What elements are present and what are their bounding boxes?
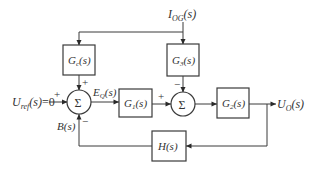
block-gc: Gc(s) [63,45,95,75]
arrow-head [212,102,218,107]
sum2-top-sign: − [174,78,180,90]
arrow-head [271,102,277,107]
block-g1: G1(s) [119,89,152,117]
svg-text:G1(s): G1(s) [124,97,147,111]
svg-text:Σ: Σ [179,98,186,112]
output-label: UO(s) [277,97,304,113]
feedback-label: B(s) [57,120,76,133]
block-diagram: IOG(s) Gc(s) G3(s) + − Uref(s)=0 + Σ EQ(… [0,0,314,172]
svg-text:Gc(s): Gc(s) [68,54,91,68]
arrow-head [114,100,120,105]
sum1-bottom-sign: − [82,115,88,127]
sum1-left-sign: + [54,88,60,100]
summing-junction-2: Σ [171,92,195,116]
svg-text:H(s): H(s) [157,140,178,153]
error-label: EQ(s) [92,86,117,100]
input-label: Uref(s)=0 [12,95,55,111]
svg-text:G3(s): G3(s) [172,54,195,68]
svg-text:Σ: Σ [75,96,82,110]
summing-junction-1: Σ [67,90,91,114]
block-g3: G3(s) [167,44,199,76]
disturbance-label: IOG(s) [167,7,196,23]
svg-text:G2(s): G2(s) [222,97,245,111]
block-g2: G2(s) [217,88,249,118]
sum2-left-sign: + [158,90,164,102]
block-h: H(s) [152,131,186,161]
sum1-top-sign: + [82,76,88,88]
arrow-head [166,102,172,107]
arrow-head [77,114,82,120]
arrow-head [186,144,192,149]
